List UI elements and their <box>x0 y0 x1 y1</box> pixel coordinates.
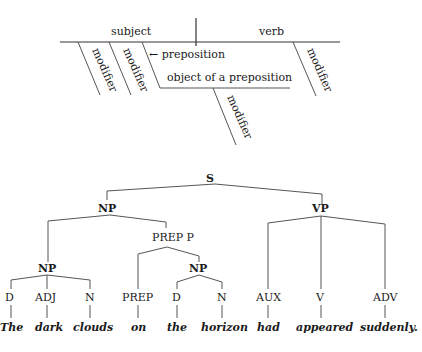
tag-PREP: PREP <box>122 291 154 304</box>
branch-VP <box>268 216 385 289</box>
modifier-label-1: modifier <box>89 46 120 95</box>
word-clouds: clouds <box>73 321 113 334</box>
word-on: on <box>131 321 146 334</box>
node-S: S <box>206 172 214 185</box>
preposition-label: ← preposition <box>149 48 225 61</box>
branch-NP-top <box>48 215 166 262</box>
word-suddenly: suddenly. <box>360 321 418 334</box>
tag-ADJ: ADJ <box>34 291 56 304</box>
word-had: had <box>257 321 280 334</box>
modifier-label-4: modifier <box>224 93 255 142</box>
tag-ADV: ADV <box>372 291 399 304</box>
object-of-preposition-label: object of a preposition <box>167 71 292 84</box>
branch-NP-pp <box>177 275 222 289</box>
phrase-structure-tree: S NP VP PREP P NP NP D ADJ N PREP D N AU… <box>0 172 418 334</box>
branch-NP-inner <box>11 275 90 289</box>
word-the-1: The <box>0 321 23 334</box>
node-NP-inner: NP <box>38 262 56 275</box>
tag-N-1: N <box>85 291 95 304</box>
tag-V: V <box>315 291 325 304</box>
node-NP-top: NP <box>98 202 116 215</box>
tag-D-1: D <box>5 291 14 304</box>
tag-D-2: D <box>172 291 181 304</box>
reed-kellogg-diagram: subject verb modifier modifier ← preposi… <box>60 18 340 145</box>
word-the-2: the <box>167 321 187 334</box>
tag-N-2: N <box>217 291 227 304</box>
node-VP: VP <box>311 202 329 215</box>
word-horizon: horizon <box>201 321 248 334</box>
modifier-label-3: modifier <box>304 46 335 95</box>
word-dark: dark <box>35 321 64 334</box>
branch-S <box>107 184 322 204</box>
node-NP-pp: NP <box>189 262 207 275</box>
tag-AUX: AUX <box>255 291 281 304</box>
verb-label: verb <box>258 25 284 38</box>
node-PREP-P: PREP P <box>152 231 195 244</box>
subject-label: subject <box>111 25 152 38</box>
word-appeared: appeared <box>296 321 353 334</box>
diagram-canvas: subject verb modifier modifier ← preposi… <box>0 0 422 352</box>
